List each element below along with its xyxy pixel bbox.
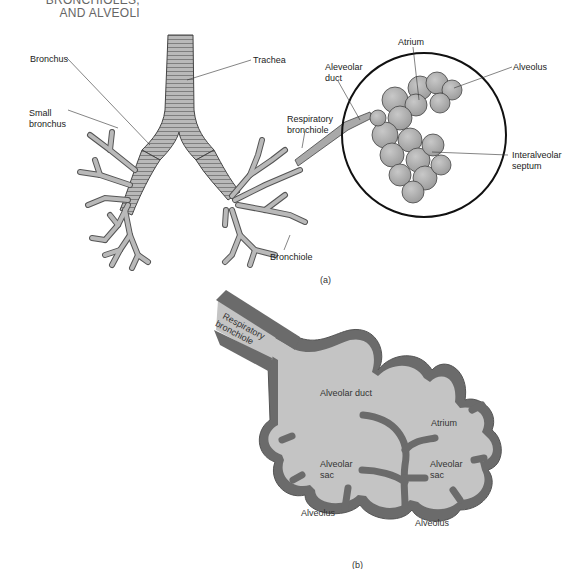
label-b-atrium: Atrium [431, 418, 457, 428]
label-b-alveolar-sac-right-2: sac [430, 470, 445, 480]
label-alveolar-duct-2: duct [325, 73, 343, 83]
figure-a: Bronchus Trachea Small bronchus Respirat… [29, 35, 562, 285]
respiratory-diagram: Bronchus Trachea Small bronchus Respirat… [0, 0, 571, 569]
label-alveolar-duct-1: Aleveolar [325, 62, 363, 72]
trachea-shape [142, 35, 214, 160]
label-respiratory-bronchiole-2: bronchiole [287, 125, 329, 135]
label-bronchus: Bronchus [30, 54, 69, 64]
label-atrium: Atrium [398, 37, 424, 47]
caption-a: (a) [320, 275, 331, 285]
label-b-alveolar-duct: Alveolar duct [320, 388, 373, 398]
label-bronchiole: Bronchiole [270, 252, 313, 262]
label-b-alveolus-left: Alveolus [301, 508, 336, 518]
caption-b: (b) [352, 560, 363, 569]
label-interalveolar-septum-2: septum [512, 161, 542, 171]
label-b-alveolar-sac-left-1: Alveolar [320, 459, 353, 469]
label-b-alveolus-right: Alveolus [415, 518, 450, 528]
label-small-bronchus-1: Small [29, 108, 52, 118]
label-trachea: Trachea [253, 55, 286, 65]
label-b-alveolar-sac-right-1: Alveolar [430, 459, 463, 469]
label-alveolus: Alveolus [513, 62, 548, 72]
alveoli-cluster [370, 72, 462, 203]
label-small-bronchus-2: bronchus [29, 119, 67, 129]
label-interalveolar-septum-1: Interalveolar [512, 150, 562, 160]
label-respiratory-bronchiole-1: Respiratory [287, 114, 334, 124]
label-b-alveolar-sac-left-2: sac [320, 470, 335, 480]
figure-b: Respiratory bronchiole Alveolar duct Atr… [214, 290, 502, 569]
